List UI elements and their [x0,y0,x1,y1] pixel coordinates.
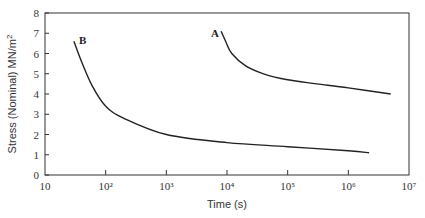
creep-rupture-chart: 012345678 1010²10³10⁴10⁵10⁶10⁷ AB Stress… [0,0,425,218]
x-axis-title: Time (s) [207,198,247,210]
x-tick-label: 10⁵ [280,180,295,192]
y-tick-label: 6 [34,48,40,60]
y-tick-label: 8 [34,7,40,19]
x-tick-label: 10³ [159,180,174,192]
curve-a [221,31,391,94]
y-tick-label: 4 [34,88,40,100]
x-tick-label: 10⁶ [341,180,356,192]
x-tick-label: 10⁴ [220,180,235,192]
y-tick-label: 7 [34,27,40,39]
x-tick-label: 10⁷ [402,180,417,192]
curve-b [74,41,369,152]
x-tick-label: 10² [99,180,114,192]
y-axis-title: Stress (Nominal) MN/m2 [5,34,18,153]
x-axis-ticks: 1010²10³10⁴10⁵10⁶10⁷ [40,170,417,192]
curve-label-b: B [79,34,87,46]
y-axis-ticks: 012345678 [34,7,50,181]
y-tick-label: 2 [34,129,40,141]
y-tick-label: 1 [34,149,40,161]
y-tick-label: 3 [34,108,40,120]
x-tick-label: 10 [40,180,52,192]
curve-label-a: A [211,27,219,39]
data-curves: AB [74,27,391,152]
y-tick-label: 5 [34,68,40,80]
